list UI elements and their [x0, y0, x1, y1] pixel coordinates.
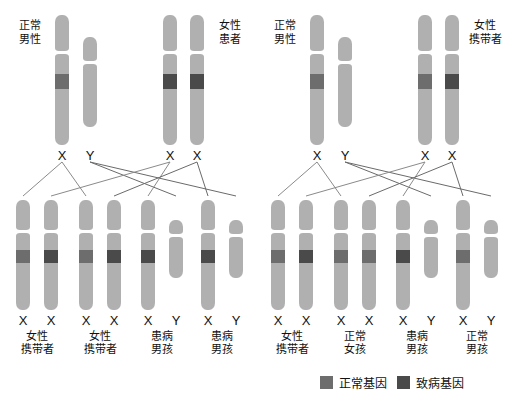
- cross-panel-left: XY正常男性XX女性患者XX女性携带者XX女性携带者XY患病男孩XY患病男孩: [0, 0, 254, 370]
- legend-label: 正常基因: [339, 374, 387, 391]
- legend-swatch-disease: [397, 376, 410, 389]
- inheritance-line: [62, 162, 86, 196]
- legend-label: 致病基因: [416, 374, 464, 391]
- inheritance-line: [114, 162, 197, 196]
- inheritance-line: [452, 162, 463, 196]
- legend-item-normal: 正常基因: [320, 374, 387, 391]
- inheritance-line: [369, 162, 452, 196]
- inheritance-line: [317, 162, 341, 196]
- inheritance-line: [197, 162, 208, 196]
- cross-panel-right: XY正常男性XX女性携带者XX女性携带者XX正常女孩XY患病男孩XY正常男孩: [255, 0, 509, 370]
- inheritance-lines: [255, 0, 509, 370]
- legend: 正常基因致病基因: [320, 374, 464, 391]
- inheritance-line: [278, 162, 317, 196]
- legend-item-disease: 致病基因: [397, 374, 464, 391]
- inheritance-line: [23, 162, 62, 196]
- legend-swatch-normal: [320, 376, 333, 389]
- inheritance-lines: [0, 0, 254, 370]
